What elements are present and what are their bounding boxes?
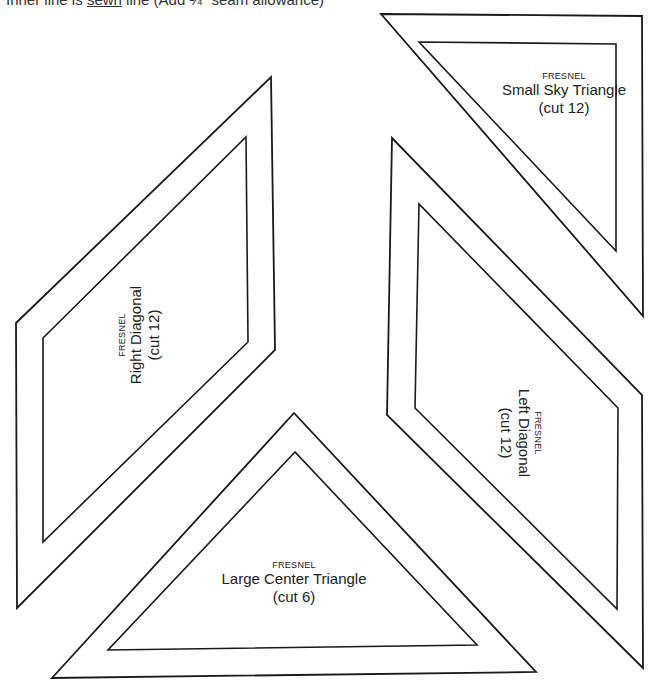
large-center-triangle-piece [52, 413, 536, 678]
right-diagonal-label: FRESNEL Right Diagonal (cut 12) [117, 275, 162, 395]
large-center-triangle-sewn-line [108, 452, 477, 650]
small-sky-triangle-label: FRESNEL Small Sky Triangle (cut 12) [494, 71, 634, 116]
left-diagonal-label: FRESNEL Left Diagonal (cut 12) [498, 373, 543, 493]
brand-label: FRESNEL [117, 275, 127, 395]
cut-count: (cut 12) [498, 373, 515, 493]
brand-label: FRESNEL [533, 373, 543, 493]
brand-label: FRESNEL [214, 560, 374, 570]
brand-label: FRESNEL [494, 71, 634, 81]
cut-count: (cut 12) [494, 99, 634, 116]
cut-count: (cut 6) [214, 588, 374, 605]
small-sky-triangle-cut-line [381, 14, 643, 316]
small-sky-triangle-piece [381, 14, 643, 316]
piece-name: Large Center Triangle [214, 570, 374, 587]
cut-count: (cut 12) [145, 275, 162, 395]
piece-name: Small Sky Triangle [494, 81, 634, 98]
piece-name: Left Diagonal [515, 373, 532, 493]
piece-name: Right Diagonal [127, 275, 144, 395]
large-center-triangle-label: FRESNEL Large Center Triangle (cut 6) [214, 560, 374, 605]
